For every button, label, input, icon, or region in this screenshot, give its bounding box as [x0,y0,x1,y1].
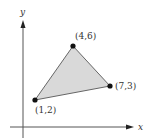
y-axis-arrow-icon [21,20,26,28]
vertex-point-4-6 [70,43,75,48]
x-axis-label: x [138,122,143,132]
vertex-label-4-6: (4,6) [75,31,96,41]
x-axis-arrow-icon [126,125,134,130]
vertex-point-1-2 [32,97,37,102]
vertex-point-7-3 [107,83,112,88]
coordinate-plane: y x (4,6) (7,3) (1,2) [0,0,149,140]
vertex-label-7-3: (7,3) [115,81,136,91]
y-axis-label: y [19,7,26,17]
diagram-canvas: y x (4,6) (7,3) (1,2) [0,0,149,140]
vertex-label-1-2: (1,2) [35,105,56,115]
triangle [35,46,110,100]
